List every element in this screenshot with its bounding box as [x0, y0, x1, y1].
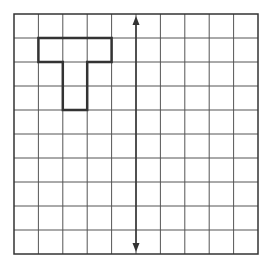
grid-diagram	[0, 0, 273, 270]
t-shape-outline	[38, 38, 111, 110]
